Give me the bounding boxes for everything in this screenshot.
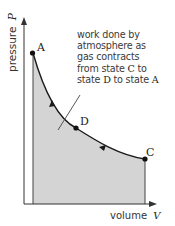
- state-point-a: [30, 50, 35, 55]
- y-axis-symbol: P: [6, 12, 18, 21]
- x-axis-label-text: volume: [110, 210, 147, 221]
- state-label-a: A: [36, 41, 46, 54]
- annotation-state-c: C: [128, 63, 135, 74]
- annotation-state-d: D: [103, 74, 111, 85]
- annotation-state-a: A: [152, 74, 159, 85]
- state-label-c: C: [146, 146, 154, 159]
- state-point-d: [73, 125, 78, 130]
- y-axis-label: pressure P: [6, 12, 18, 72]
- y-axis-arrow-icon: [21, 17, 27, 25]
- annotation-line: from state C to: [77, 63, 173, 74]
- work-annotation: work done by atmosphere as gas contracts…: [77, 29, 173, 85]
- x-axis-arrow-icon: [149, 201, 157, 207]
- annotation-text: to: [135, 63, 147, 74]
- annotation-line: state D to state A: [77, 74, 173, 85]
- annotation-text: from state: [77, 63, 128, 74]
- x-axis-label: volume V: [110, 210, 162, 221]
- annotation-text: state: [77, 74, 103, 85]
- annotation-line: gas contracts: [77, 51, 173, 62]
- annotation-line: work done by: [77, 29, 173, 40]
- x-axis-symbol: V: [153, 210, 162, 221]
- y-axis-label-text: pressure: [6, 27, 18, 72]
- state-label-d: D: [80, 115, 89, 128]
- annotation-line: atmosphere as: [77, 40, 173, 51]
- annotation-text: to state: [111, 74, 152, 85]
